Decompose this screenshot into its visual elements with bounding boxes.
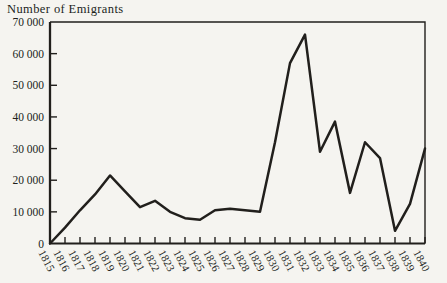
chart-title: Number of Emigrants	[7, 2, 124, 17]
y-axis-label: 40 000	[12, 111, 44, 123]
y-axis-label: 60 000	[12, 48, 44, 60]
y-axis-label: 10 000	[12, 206, 44, 218]
y-axis-label: 0	[38, 238, 44, 250]
emigrants-data-line	[50, 35, 425, 244]
emigrants-line-chart: 010 00020 00030 00040 00050 00060 00070 …	[0, 0, 447, 283]
y-axis-label: 30 000	[12, 143, 44, 155]
chart-page: Number of Emigrants 010 00020 00030 0004…	[0, 0, 447, 283]
y-axis-label: 20 000	[12, 174, 44, 186]
y-axis-label: 70 000	[12, 16, 44, 28]
y-axis-label: 50 000	[12, 79, 44, 91]
